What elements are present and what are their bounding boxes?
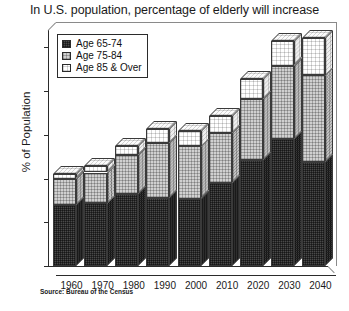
x-tick-mark (165, 271, 166, 275)
plot-area: 0510152025 19601970198019902000201020202… (48, 30, 336, 266)
bar-segment-age-85-over[interactable] (53, 174, 76, 178)
x-tick-mark (72, 271, 73, 275)
bar-segment-side (263, 152, 271, 266)
x-tick-mark (103, 271, 104, 275)
bar-segment-age-85-over[interactable] (240, 79, 263, 99)
bar-segment-age-65-74[interactable] (209, 183, 232, 266)
bar-segment-age-85-over[interactable] (271, 41, 294, 65)
bar-segment-age-85-over[interactable] (178, 131, 201, 147)
plot-right-rail (336, 22, 337, 266)
y-tick-mark (44, 179, 48, 180)
bar-segment-age-75-84[interactable] (302, 75, 325, 162)
y-tick-mark (44, 222, 48, 223)
bar-segment-age-65-74[interactable] (240, 160, 263, 266)
bar-segment-age-75-84[interactable] (178, 146, 201, 198)
bar-segment-side (201, 191, 209, 266)
bar-group[interactable] (271, 30, 294, 266)
bar-segment-age-85-over[interactable] (84, 166, 107, 172)
bar-group[interactable] (302, 30, 325, 266)
bar-segment-side (232, 125, 240, 183)
bar-segment-side (294, 58, 302, 139)
x-tick-mark (289, 271, 290, 275)
bar-segment-age-85-over[interactable] (209, 116, 232, 133)
bar-segment-age-65-74[interactable] (84, 203, 107, 266)
bar-segment-age-65-74[interactable] (53, 205, 76, 266)
bar-segment-side (169, 190, 177, 266)
x-tick-mark (320, 271, 321, 275)
bar-segment-side (325, 154, 333, 266)
x-tick-label: 2040 (300, 280, 340, 291)
bar-group[interactable] (84, 30, 107, 266)
bar-segment-side (76, 197, 84, 266)
bar-segment-side (107, 195, 115, 266)
bar-group[interactable] (209, 30, 232, 266)
bar-segment-age-75-84[interactable] (115, 155, 138, 194)
bar-segment-age-65-74[interactable] (271, 139, 294, 266)
bar-segment-side (263, 91, 271, 160)
bar-segment-age-75-84[interactable] (240, 99, 263, 160)
x-tick-mark (258, 271, 259, 275)
bar-segment-side (138, 147, 146, 194)
y-axis-line (48, 30, 49, 266)
y-tick-mark (44, 135, 48, 136)
x-tick-mark (196, 271, 197, 275)
bar-group[interactable] (240, 30, 263, 266)
bar-segment-age-85-over[interactable] (146, 129, 169, 143)
bar-segment-side (294, 131, 302, 266)
bar-segment-age-75-84[interactable] (146, 143, 169, 198)
bar-segment-age-75-84[interactable] (53, 179, 76, 205)
x-axis-line (48, 266, 328, 267)
source-note: Source: Bureau of the Census (40, 288, 133, 295)
bar-segment-age-75-84[interactable] (271, 66, 294, 139)
x-axis-front-line (56, 275, 336, 276)
y-tick-mark (44, 47, 48, 48)
bar-segment-side (169, 135, 177, 198)
chart-title: In U.S. population, percentage of elderl… (0, 3, 349, 17)
bar-group[interactable] (115, 30, 138, 266)
bar-segment-side (325, 67, 333, 162)
bar-group[interactable] (53, 30, 76, 266)
bar-group[interactable] (146, 30, 169, 266)
bar-segment-side (232, 175, 240, 266)
x-tick-mark (134, 271, 135, 275)
bar-segment-side (138, 186, 146, 266)
bar-segment-age-65-74[interactable] (302, 162, 325, 266)
x-tick-mark (227, 271, 228, 275)
chart-container: In U.S. population, percentage of elderl… (0, 0, 349, 311)
bar-segment-age-75-84[interactable] (209, 133, 232, 183)
bar-segment-age-75-84[interactable] (84, 173, 107, 204)
bar-group[interactable] (178, 30, 201, 266)
bar-segment-age-65-74[interactable] (178, 199, 201, 266)
bar-segment-age-65-74[interactable] (146, 198, 169, 266)
bar-segment-age-85-over[interactable] (115, 146, 138, 155)
x-axis-depth-line (328, 266, 335, 273)
bar-segment-age-85-over[interactable] (302, 38, 325, 76)
bar-segment-age-65-74[interactable] (115, 194, 138, 266)
bar-segment-side (201, 138, 209, 198)
y-axis-label: % of Population (20, 72, 32, 192)
y-tick-mark (44, 266, 48, 267)
y-tick-mark (44, 91, 48, 92)
plot-top-rail (56, 22, 336, 23)
